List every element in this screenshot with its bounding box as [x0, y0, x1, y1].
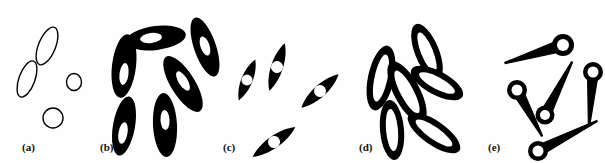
shape-panels-svg [0, 0, 605, 163]
panel-label-d: (d) [359, 141, 372, 153]
tadpole-3-head-hole [540, 110, 550, 120]
tadpole-5-head-hole [533, 146, 544, 157]
tadpole-4-head-hole [588, 67, 599, 78]
panel-label-c: (c) [223, 141, 235, 153]
figure-canvas [0, 0, 605, 163]
tadpole-2-head-hole [512, 85, 523, 96]
panel-label-e: (e) [488, 141, 500, 153]
panel-label-a: (a) [22, 141, 35, 153]
tadpole-1-head-hole [557, 39, 569, 51]
panel-label-b: (b) [100, 141, 113, 153]
